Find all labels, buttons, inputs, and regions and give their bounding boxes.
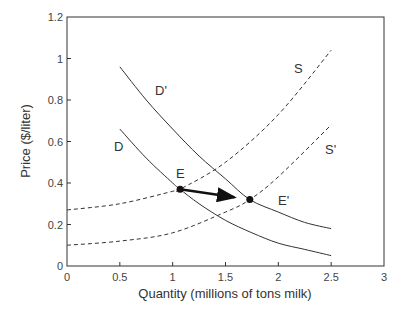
y-tick-label: 0.2 [48,219,63,231]
y-axis-ticks: 00.20.40.60.811.2 [48,11,71,272]
curve-d-prime [120,67,331,229]
y-axis-label: Price ($/liter) [18,104,33,178]
point-e-prime [246,196,253,203]
label-e-prime: E' [278,193,289,208]
x-tick-label: 2 [275,271,281,283]
curves [67,50,331,255]
x-axis-ticks: 00.511.522.53 [64,262,387,283]
y-tick-label: 0.4 [48,177,63,189]
label-d-prime: D' [155,83,167,98]
x-tick-label: 3 [381,271,387,283]
y-tick-label: 0 [57,260,63,272]
curve-d [120,129,331,256]
label-s: S [294,61,303,76]
x-tick-label: 0 [64,271,70,283]
label-e: E [176,166,185,181]
curve-s [67,50,331,210]
x-axis-label: Quantity (millions of tons milk) [138,286,311,301]
x-tick-label: 2.5 [324,271,339,283]
label-d: D [114,139,123,154]
y-tick-label: 0.8 [48,94,63,106]
y-tick-label: 1 [57,53,63,65]
point-e [177,186,184,193]
label-s-prime: S' [325,142,336,157]
supply-demand-chart: 00.511.522.53 00.20.40.60.811.2 Quantity… [0,0,406,316]
x-tick-label: 1 [170,271,176,283]
y-tick-label: 1.2 [48,11,63,23]
curve-s-prime [67,125,331,245]
x-tick-label: 1.5 [218,271,233,283]
x-tick-label: 0.5 [112,271,127,283]
y-tick-label: 0.6 [48,136,63,148]
